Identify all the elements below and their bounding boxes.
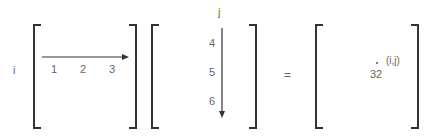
column-arrow-icon (219, 28, 225, 118)
arrows (0, 0, 433, 137)
row-arrow-icon (42, 54, 129, 60)
